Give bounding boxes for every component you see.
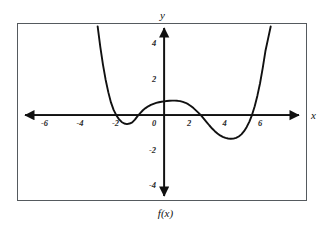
x-tick-label--6: -6 [41, 119, 48, 128]
function-name-label: f(x) [0, 208, 331, 219]
x-tick-label--2: -2 [112, 119, 119, 128]
x-tick-label-4: 4 [223, 119, 227, 128]
x-tick-label-2: 2 [187, 119, 191, 128]
y-axis-label: y [160, 10, 165, 21]
y-tick-label-2: 2 [152, 75, 156, 84]
x-axis-label: x [311, 110, 316, 121]
x-tick-label-6: 6 [258, 119, 262, 128]
x-tick-label-0: 0 [152, 119, 156, 128]
y-tick-label--4: -4 [149, 181, 156, 190]
x-tick-label--4: -4 [77, 119, 84, 128]
function-curve [0, 0, 331, 230]
y-tick-label-4: 4 [152, 39, 156, 48]
function-graph-figure: -6 -4 -2 0 2 4 6 4 2 -2 -4 x y f(x) [0, 0, 331, 230]
y-tick-label--2: -2 [149, 146, 156, 155]
